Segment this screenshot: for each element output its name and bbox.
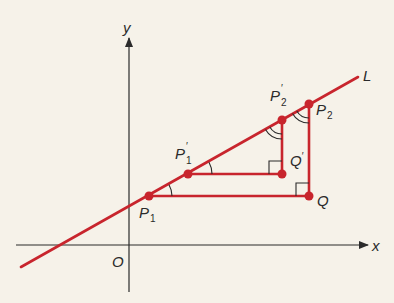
label-p1prime: P′1 — [175, 146, 185, 161]
label-p1: P1 — [139, 205, 156, 224]
label-q: Q — [317, 193, 329, 208]
angle-arc-p1prime — [209, 162, 212, 174]
label-p1prime-prime: ′ — [186, 142, 188, 152]
point-q — [305, 192, 314, 201]
label-qprime-prime: ′ — [302, 151, 304, 162]
label-p1prime-base: P — [175, 145, 185, 162]
angle-arc-p2-inner — [297, 111, 309, 118]
label-p2prime-sub: 2 — [281, 98, 287, 108]
label-p2-base: P — [316, 101, 326, 118]
y-axis-label: y — [123, 20, 131, 35]
label-p2prime-base: P — [270, 87, 280, 104]
line-l-label: L — [363, 68, 371, 83]
label-qprime-base: Q — [290, 152, 302, 169]
point-p2 — [305, 100, 314, 109]
label-p2prime-prime: ′ — [281, 84, 283, 94]
point-p2prime — [278, 116, 287, 125]
label-p2prime: P′2 — [270, 88, 280, 103]
diagram-svg — [0, 0, 394, 303]
point-p1prime — [184, 170, 193, 179]
angle-arc-p1 — [169, 185, 172, 196]
label-p2: P2 — [316, 102, 333, 121]
angle-arc-p2prime-inner — [270, 127, 282, 134]
point-p1 — [145, 192, 154, 201]
label-qprime: Q′ — [290, 152, 304, 168]
label-p1-base: P — [139, 204, 149, 221]
origin-label: O — [112, 254, 124, 269]
x-axis-label: x — [372, 238, 380, 253]
similar-triangles-diagram: y x O L P1 P′1 P′2 P2 Q′ Q — [0, 0, 394, 303]
label-q-base: Q — [317, 192, 329, 209]
point-qprime — [278, 170, 287, 179]
label-p1-sub: 1 — [150, 213, 156, 224]
label-p1prime-sub: 1 — [186, 156, 192, 166]
label-p2-sub: 2 — [327, 110, 333, 121]
